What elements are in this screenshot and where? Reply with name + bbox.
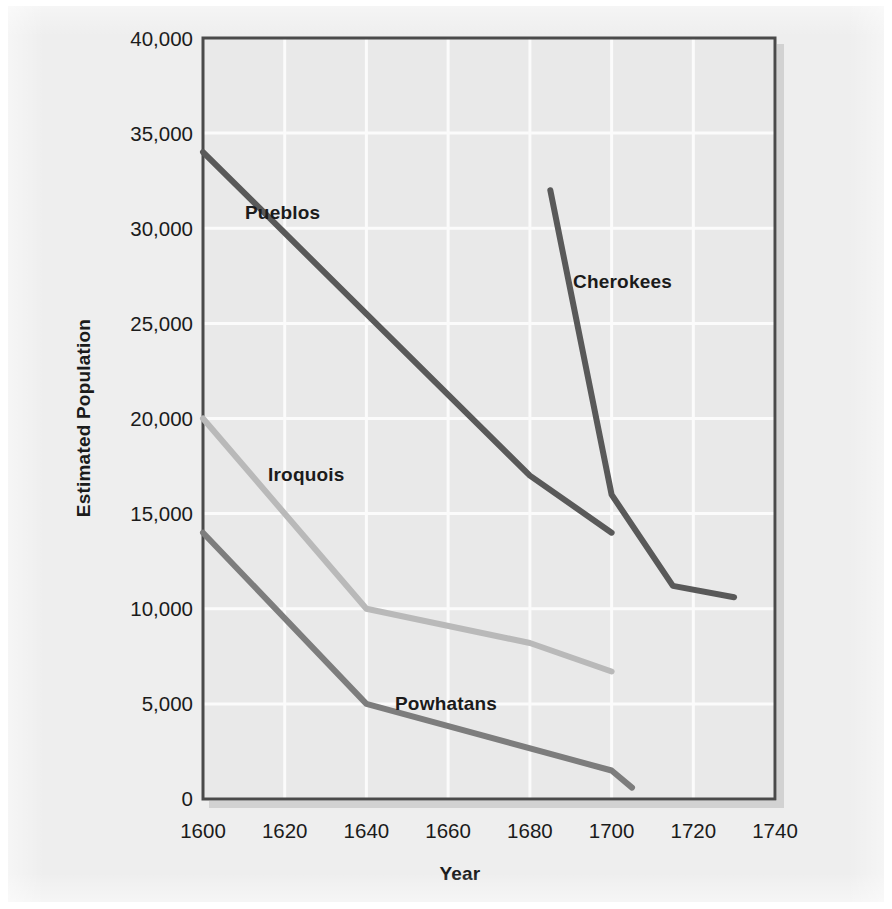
x-tick-1720: 1720	[670, 819, 716, 842]
series-label-pueblos: Pueblos	[245, 202, 320, 223]
y-tick-35000: 35,000	[130, 122, 193, 145]
y-tick-25000: 25,000	[130, 312, 193, 335]
y-tick-30000: 30,000	[130, 217, 193, 240]
x-axis-title: Year	[440, 863, 481, 884]
series-label-cherokees: Cherokees	[573, 271, 672, 292]
x-tick-1660: 1660	[425, 819, 471, 842]
y-tick-10000: 10,000	[130, 597, 193, 620]
x-tick-1640: 1640	[344, 819, 390, 842]
series-label-powhatans: Powhatans	[395, 693, 497, 714]
x-tick-1740: 1740	[752, 819, 798, 842]
y-tick-40000: 40,000	[130, 27, 193, 50]
y-axis-title: Estimated Population	[73, 319, 94, 517]
series-label-iroquois: Iroquois	[268, 464, 345, 485]
axis-shadow	[209, 801, 781, 808]
x-tick-1600: 1600	[180, 819, 226, 842]
y-axis-tick-labels: 0 5,000 10,000 15,000 20,000 25,000 30,0…	[130, 27, 193, 810]
y-tick-20000: 20,000	[130, 407, 193, 430]
frame-shadow-right	[777, 44, 784, 808]
x-axis-tick-labels: 1600 1620 1640 1660 1680 1700 1720 1740	[180, 819, 798, 842]
x-tick-1700: 1700	[589, 819, 635, 842]
population-line-chart: 0 5,000 10,000 15,000 20,000 25,000 30,0…	[0, 0, 892, 909]
y-tick-0: 0	[182, 787, 193, 810]
y-tick-5000: 5,000	[142, 692, 193, 715]
y-tick-15000: 15,000	[130, 502, 193, 525]
x-tick-1620: 1620	[262, 819, 308, 842]
x-tick-1680: 1680	[507, 819, 553, 842]
figure-root: 0 5,000 10,000 15,000 20,000 25,000 30,0…	[0, 0, 892, 909]
